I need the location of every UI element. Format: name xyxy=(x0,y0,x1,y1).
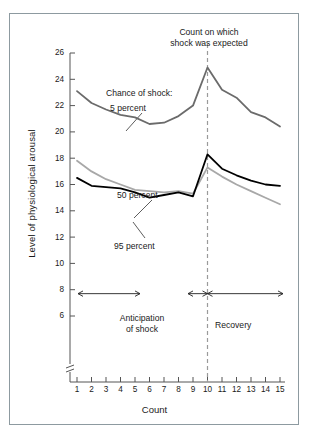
leader-line-1 xyxy=(134,200,152,218)
x-tick-label: 14 xyxy=(259,385,273,394)
y-tick-label: 18 xyxy=(48,154,64,163)
y-tick-label: 12 xyxy=(48,233,64,242)
y-tick-label: 8 xyxy=(48,285,64,294)
x-tick-label: 10 xyxy=(201,385,215,394)
chart-plot-area xyxy=(0,0,309,438)
y-tick-label: 22 xyxy=(48,101,64,110)
x-tick-label: 7 xyxy=(157,385,171,394)
y-axis-label: Level of physiological arousal xyxy=(26,129,37,259)
x-tick-label: 3 xyxy=(99,385,113,394)
series-label-5-percent: 5 percent xyxy=(110,103,146,113)
chance-of-shock-label: Chance of shock: xyxy=(106,88,172,98)
x-tick-label: 13 xyxy=(244,385,258,394)
y-tick-label: 6 xyxy=(48,311,64,320)
x-tick-label: 5 xyxy=(128,385,142,394)
y-tick-label: 26 xyxy=(48,48,64,57)
x-tick-label: 8 xyxy=(172,385,186,394)
anticipation-of-shock-label: Anticipation of shock xyxy=(96,313,188,334)
series-label-95-percent: 95 percent xyxy=(114,241,155,251)
series-label-50-percent: 50 percent xyxy=(117,190,158,200)
y-tick-label: 24 xyxy=(48,75,64,84)
x-tick-label: 6 xyxy=(143,385,157,394)
x-tick-label: 12 xyxy=(230,385,244,394)
x-tick-label: 11 xyxy=(215,385,229,394)
series-line-50-percent xyxy=(77,161,280,204)
x-tick-label: 9 xyxy=(186,385,200,394)
figure-container: Level of physiological arousal Count Cou… xyxy=(0,0,309,438)
leader-line-2 xyxy=(133,222,145,238)
x-tick-label: 2 xyxy=(85,385,99,394)
y-tick-label: 16 xyxy=(48,180,64,189)
axis-break-mark xyxy=(66,369,74,372)
x-axis-label: Count xyxy=(0,404,309,415)
y-tick-label: 10 xyxy=(48,259,64,268)
expected-shock-annotation: Count on which shock was expected xyxy=(139,27,279,48)
x-tick-label: 1 xyxy=(70,385,84,394)
y-tick-label: 14 xyxy=(48,206,64,215)
x-tick-label: 15 xyxy=(273,385,287,394)
x-tick-label: 4 xyxy=(114,385,128,394)
y-tick-label: 20 xyxy=(48,127,64,136)
recovery-label: Recovery xyxy=(215,320,251,330)
axis-break-mark xyxy=(66,365,74,368)
